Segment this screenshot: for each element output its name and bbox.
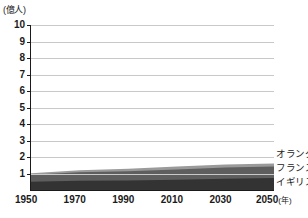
y-axis-tick bbox=[27, 157, 31, 158]
x-axis-tick-label: 1970 bbox=[64, 194, 86, 205]
x-axis-tick-label: 2050(年) bbox=[256, 194, 292, 206]
y-axis-tick bbox=[27, 42, 31, 43]
gridline bbox=[31, 124, 274, 125]
population-stacked-area-chart: (億人) 10987654321 19501970199020102030205… bbox=[0, 0, 308, 218]
gridline bbox=[31, 141, 274, 142]
y-axis-tick bbox=[27, 75, 31, 76]
legend-item-オランダ: オランダ bbox=[276, 147, 308, 161]
gridline bbox=[31, 108, 274, 109]
y-axis-tick-label: 6 bbox=[0, 86, 25, 96]
y-axis-tick-label: 10 bbox=[0, 20, 25, 30]
x-axis-tick-label: 2010 bbox=[161, 194, 183, 205]
y-axis-tick bbox=[27, 91, 31, 92]
gridline bbox=[31, 58, 274, 59]
x-axis-tick-label: 1990 bbox=[112, 194, 134, 205]
y-axis-tick bbox=[27, 108, 31, 109]
y-axis-tick-label: 9 bbox=[0, 37, 25, 47]
x-axis-tick-label: 1950 bbox=[15, 194, 37, 205]
y-axis-unit-label: (億人) bbox=[3, 3, 26, 16]
y-axis-tick-label: 3 bbox=[0, 136, 25, 146]
x-axis-tick-label: 2030 bbox=[209, 194, 231, 205]
gridline bbox=[31, 91, 274, 92]
gridline bbox=[31, 157, 274, 158]
gridline bbox=[31, 174, 274, 175]
legend: オランダフランスイギリス bbox=[276, 147, 308, 189]
legend-item-フランス: フランス bbox=[276, 161, 308, 175]
y-axis-tick-label: 4 bbox=[0, 119, 25, 129]
gridline bbox=[31, 75, 274, 76]
plot-area bbox=[31, 25, 274, 190]
y-axis-tick bbox=[27, 174, 31, 175]
gridline bbox=[31, 25, 274, 26]
y-axis-tick-label: 7 bbox=[0, 70, 25, 80]
x-axis-unit-suffix: (年) bbox=[278, 196, 291, 205]
x-axis-line bbox=[31, 190, 274, 191]
y-axis-tick-label: 1 bbox=[0, 169, 25, 179]
gridline bbox=[31, 42, 274, 43]
y-axis-tick-label: 8 bbox=[0, 53, 25, 63]
y-axis-tick bbox=[27, 25, 31, 26]
y-axis-tick-label: 5 bbox=[0, 103, 25, 113]
y-axis-tick bbox=[27, 58, 31, 59]
legend-item-イギリス: イギリス bbox=[276, 175, 308, 189]
y-axis-tick-label: 2 bbox=[0, 152, 25, 162]
y-axis-tick bbox=[27, 124, 31, 125]
y-axis-tick bbox=[27, 141, 31, 142]
